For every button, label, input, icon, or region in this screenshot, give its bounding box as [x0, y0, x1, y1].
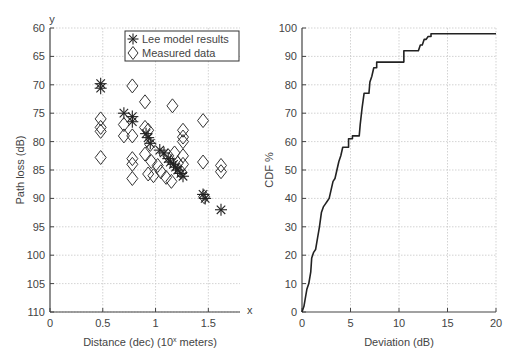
- legend-entry-measured: Measured data: [142, 47, 216, 59]
- x-axis-label: Deviation (dB): [364, 336, 434, 348]
- lee-model-point: [95, 82, 107, 94]
- path-loss-scatter-plot: 606570758085909510010511000.511.5yxDista…: [14, 13, 253, 348]
- measured-data-point: [95, 120, 106, 134]
- cdf-line-plot: 010203040506070809010005101520Deviation …: [263, 22, 502, 348]
- y-tick-label: 105: [27, 278, 45, 290]
- measured-data-point: [198, 114, 209, 128]
- measured-data-point: [95, 151, 106, 165]
- measured-data-point: [198, 155, 209, 169]
- x-tick-label: 10: [393, 317, 405, 329]
- measured-data-point: [127, 157, 138, 171]
- measured-data-point: [148, 169, 159, 183]
- y-tick-label: 80: [285, 79, 297, 91]
- y-tick-label: 95: [33, 221, 45, 233]
- y-axis-label: Path loss (dB): [14, 135, 26, 204]
- measured-data-point: [167, 99, 178, 113]
- y-tick-label: 85: [33, 164, 45, 176]
- measured-data-point: [127, 79, 138, 93]
- x-axis-label: Distance (dec) (10x meters): [83, 336, 217, 348]
- x-tick-label: 15: [441, 317, 453, 329]
- x-tick-label: 1: [152, 317, 158, 329]
- measured-data-point: [127, 129, 138, 143]
- legend: Lee model resultsMeasured data: [125, 31, 239, 61]
- y-tick-label: 90: [285, 50, 297, 62]
- measured-data-point: [127, 152, 138, 166]
- lee-model-point: [118, 107, 130, 119]
- lee-model-point: [144, 137, 156, 149]
- y-tick-label: 70: [33, 79, 45, 91]
- figure: 606570758085909510010511000.511.5yxDista…: [0, 0, 516, 363]
- x-tick-label: 0.5: [95, 317, 110, 329]
- y-axis-label: CDF %: [263, 152, 275, 188]
- y-axis-letter: y: [49, 13, 55, 25]
- measured-data-point: [178, 149, 189, 163]
- y-tick-label: 60: [285, 136, 297, 148]
- legend-asterisk-icon: [128, 34, 139, 45]
- y-tick-label: 100: [27, 249, 45, 261]
- y-tick-label: 110: [27, 306, 45, 318]
- x-axis-letter: x: [247, 304, 253, 316]
- lee-model-point: [126, 116, 138, 128]
- y-tick-label: 20: [285, 249, 297, 261]
- x-tick-label: 0: [47, 317, 53, 329]
- x-tick-label: 0: [299, 317, 305, 329]
- measured-data-point: [127, 172, 138, 186]
- y-tick-label: 90: [33, 192, 45, 204]
- y-tick-label: 40: [285, 192, 297, 204]
- y-tick-label: 100: [279, 22, 297, 34]
- y-tick-label: 80: [33, 136, 45, 148]
- x-tick-label: 1.5: [201, 317, 216, 329]
- measured-data-point: [140, 95, 151, 109]
- y-tick-label: 70: [285, 107, 297, 119]
- y-tick-label: 65: [33, 50, 45, 62]
- lee-model-point: [215, 204, 227, 216]
- legend-entry-lee: Lee model results: [142, 33, 229, 45]
- y-tick-label: 0: [291, 306, 297, 318]
- x-tick-label: 5: [347, 317, 353, 329]
- measured-data-point: [143, 167, 154, 181]
- lee-model-point: [199, 192, 211, 204]
- y-tick-label: 50: [285, 164, 297, 176]
- y-tick-label: 75: [33, 107, 45, 119]
- y-tick-label: 10: [285, 278, 297, 290]
- y-tick-label: 30: [285, 221, 297, 233]
- y-tick-label: 60: [33, 22, 45, 34]
- x-tick-label: 20: [490, 317, 502, 329]
- lee-model-point: [177, 170, 189, 182]
